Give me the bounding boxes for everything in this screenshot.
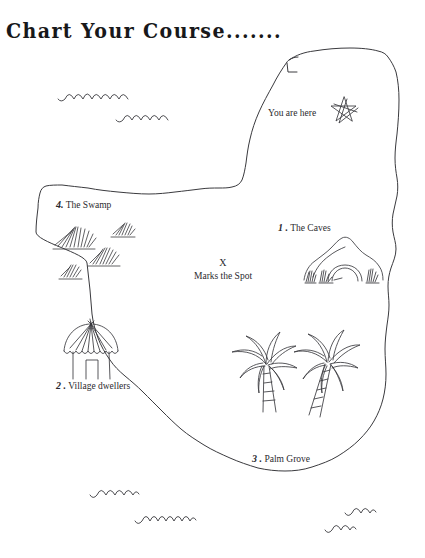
location-name-swamp: The Swamp: [66, 200, 112, 210]
location-label-village: 2 . Village dwellers: [56, 380, 130, 393]
wave-icon: [90, 491, 139, 498]
location-name-village: Village dwellers: [68, 381, 130, 391]
cave-icon: [304, 237, 383, 283]
palm-tree-icon: [232, 332, 297, 412]
grass-tuft-icon: [59, 265, 82, 279]
island-notch: [287, 63, 297, 72]
wave-icon: [345, 509, 376, 516]
wave-icon: [325, 526, 356, 533]
wave-icon: [58, 94, 128, 101]
map-page: Chart Your Course....... You are here X …: [0, 0, 425, 558]
location-label-swamp: 4. The Swamp: [56, 199, 111, 212]
location-label-palm-grove: 3 . Palm Grove: [252, 453, 310, 466]
wave-icon: [135, 517, 196, 524]
hut-icon: [64, 319, 118, 379]
location-number-swamp: 4.: [56, 199, 64, 210]
you-are-here-label: You are here: [268, 108, 316, 120]
location-number-village: 2 .: [56, 380, 66, 391]
location-number-palm-grove: 3 .: [252, 453, 262, 464]
page-title: Chart Your Course.......: [6, 18, 282, 43]
wave-group-top-left: [58, 94, 168, 122]
palm-tree-icon: [294, 330, 360, 417]
grass-tuft-icon: [88, 248, 120, 266]
wave-group-bottom-left: [90, 491, 196, 524]
location-name-caves: The Caves: [290, 223, 330, 233]
wave-icon: [116, 116, 168, 123]
star-icon: [331, 97, 358, 123]
grass-tuft-icon: [111, 223, 135, 237]
location-label-caves: 1 . The Caves: [278, 222, 331, 235]
wave-group-bottom-right: [325, 509, 376, 533]
treasure-mark: X: [178, 257, 268, 270]
treasure-caption: Marks the Spot: [178, 271, 268, 283]
grass-tuft-icon: [53, 227, 96, 249]
location-name-palm-grove: Palm Grove: [264, 454, 310, 464]
location-number-caves: 1 .: [278, 222, 288, 233]
